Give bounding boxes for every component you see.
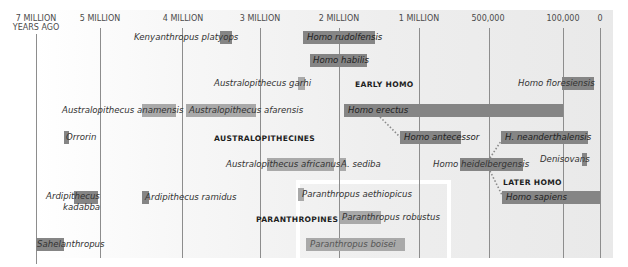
label-australopithecus-garhi: Australopithecus garhi	[214, 77, 311, 90]
label-ardipithecus-ramidus: Ardipithecus ramidus	[145, 191, 237, 204]
label-a-sediba: A. sediba	[341, 158, 381, 171]
label-sahelanthropus: Sahelanthropus	[37, 238, 105, 251]
label-homo-sapiens: Homo sapiens	[506, 191, 567, 204]
label-orrorin: Orrorin	[66, 131, 96, 144]
human-evolution-timeline: 7 MILLION YEARS AGO 5 MILLION 4 MILLION …	[0, 0, 628, 267]
link-erectus-antecessor	[380, 117, 400, 137]
label-homo-habilis: Homo habilis	[313, 54, 369, 67]
label-homo-rudolfensis: Homo rudolfensis	[307, 31, 382, 44]
label-homo-heidelbergensis: Homo heidelbergensis	[433, 158, 529, 171]
label-australopithecus-afarensis: Australopithecus afarensis	[189, 104, 303, 117]
group-label-australopithecines: AUSTRALOPITHECINES	[214, 134, 315, 143]
label-homo-antecessor: Homo antecessor	[404, 131, 479, 144]
label-paranthropus-robustus: Paranthropus robustus	[342, 211, 440, 224]
label-denisovans: Denisovans	[540, 153, 590, 166]
group-label-early-homo: EARLY HOMO	[355, 80, 414, 89]
group-label-later-homo: LATER HOMO	[503, 178, 562, 187]
label-paranthropus-boisei: Paranthropus boisei	[310, 238, 396, 251]
label-australopithecus-anamensis: Australopithecus anamensis	[62, 104, 183, 117]
label-ardipithecus-kadabba-line2: kadabba	[63, 201, 100, 214]
label-kenyanthropus-platyops: Kenyanthropus platyops	[134, 31, 238, 44]
label-homo-floresiensis: Homo floresiensis	[518, 77, 595, 90]
label-homo-erectus: Homo erectus	[348, 104, 408, 117]
label-paranthropus-aethiopicus: Paranthropus aethiopicus	[302, 188, 412, 201]
label-h-neanderthalensis: H. neanderthalensis	[505, 131, 591, 144]
group-label-paranthropines: PARANTHROPINES	[256, 215, 338, 224]
label-australopithecus-africanus: Australopithecus africanus	[226, 158, 341, 171]
